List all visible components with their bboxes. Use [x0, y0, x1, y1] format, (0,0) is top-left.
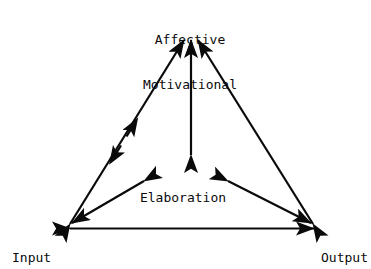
node-affective-motivational-line1: Affective [143, 32, 237, 47]
node-affective-motivational-line2: Motivational [143, 77, 237, 92]
node-affective-motivational: Affective Motivational [143, 2, 237, 122]
node-elaboration: Elaboration [140, 160, 226, 235]
node-output-label: Output [321, 250, 368, 265]
node-input: Input [12, 220, 51, 269]
node-elaboration-label: Elaboration [140, 190, 226, 205]
node-output: Output [321, 220, 368, 269]
node-input-label: Input [12, 250, 51, 265]
